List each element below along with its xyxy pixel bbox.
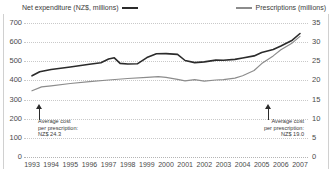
x-axis: 1993199419951996199719981999200020012002… [0, 160, 332, 175]
plot-area: 0100200300400500600700 05101520253035 [0, 14, 332, 160]
legend-label-prescriptions: Prescriptions (millions) [256, 3, 326, 12]
y-tick-right: 5 [312, 134, 332, 142]
x-tick: 2006 [273, 160, 289, 169]
x-tick: 1999 [139, 160, 155, 169]
x-tick: 2004 [235, 160, 251, 169]
series-line [32, 34, 300, 76]
y-axis-left: 0100200300400500600700 [0, 14, 22, 160]
legend-item-net-expenditure: Net expenditure (NZ$, millions) [22, 3, 138, 12]
x-tick: 2005 [254, 160, 270, 169]
x-tick: 1993 [24, 160, 40, 169]
annotation-left-line3: NZ$ 24.3 [38, 131, 78, 138]
y-tick-left: 400 [0, 76, 22, 84]
y-tick-left: 500 [0, 57, 22, 65]
y-tick-left: 600 [0, 38, 22, 46]
chart-container: Net expenditure (NZ$, millions) Prescrip… [0, 0, 332, 175]
annotation-left-line1: Average cost [38, 118, 78, 125]
y-tick-right: 20 [312, 76, 332, 84]
y-tick-right: 35 [312, 19, 332, 27]
series-lines [24, 14, 308, 160]
annotation-right-line1: Average cost [264, 118, 304, 125]
y-tick-left: 300 [0, 96, 22, 104]
series-line [32, 36, 300, 90]
line-swatch-icon [122, 7, 138, 9]
y-tick-right: 10 [312, 115, 332, 123]
y-tick-left: 200 [0, 115, 22, 123]
x-tick: 2001 [177, 160, 193, 169]
annotation-right-line2: per prescription: [264, 125, 304, 132]
x-tick: 1994 [43, 160, 59, 169]
x-tick: 2000 [158, 160, 174, 169]
x-tick: 2007 [292, 160, 308, 169]
x-tick: 1995 [62, 160, 78, 169]
x-tick: 1998 [120, 160, 136, 169]
y-tick-left: 700 [0, 19, 22, 27]
y-tick-left: 100 [0, 134, 22, 142]
legend-item-prescriptions: Prescriptions (millions) [236, 3, 326, 12]
y-tick-right: 30 [312, 38, 332, 46]
x-tick: 1996 [82, 160, 98, 169]
line-swatch-icon [236, 7, 252, 9]
x-tick: 2002 [196, 160, 212, 169]
annotation-right-line3: NZ$ 19.0 [264, 131, 304, 138]
x-tick: 1997 [101, 160, 117, 169]
legend-label-net-expenditure: Net expenditure (NZ$, millions) [22, 3, 118, 12]
y-axis-right: 05101520253035 [310, 14, 332, 160]
x-tick: 2003 [216, 160, 232, 169]
y-tick-right: 15 [312, 96, 332, 104]
annotation-left: Average cost per prescription: NZ$ 24.3 [38, 118, 78, 138]
y-tick-right: 25 [312, 57, 332, 65]
annotation-right: Average cost per prescription: NZ$ 19.0 [264, 118, 304, 138]
annotation-left-line2: per prescription: [38, 125, 78, 132]
